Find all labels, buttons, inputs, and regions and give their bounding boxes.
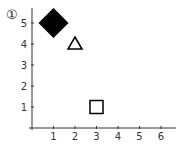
x-tick-label: 4 <box>115 131 121 142</box>
square-marker <box>90 101 103 114</box>
x-tick-label: 6 <box>158 131 164 142</box>
scatter-chart: ① 123456 12345 <box>0 0 182 144</box>
x-tick-label: 5 <box>136 131 142 142</box>
y-tick-label: 2 <box>21 81 27 92</box>
data-points <box>40 9 104 114</box>
problem-number-label: ① <box>6 7 18 22</box>
y-tick-label: 1 <box>21 102 27 113</box>
diamond-marker <box>40 9 68 37</box>
y-tick-label: 4 <box>21 39 27 50</box>
y-tick-label: 5 <box>21 18 27 29</box>
x-tick-label: 2 <box>72 131 78 142</box>
triangle-marker <box>68 37 82 49</box>
x-tick-label: 3 <box>93 131 99 142</box>
y-tick-label: 3 <box>21 60 27 71</box>
x-tick-label: 1 <box>50 131 56 142</box>
